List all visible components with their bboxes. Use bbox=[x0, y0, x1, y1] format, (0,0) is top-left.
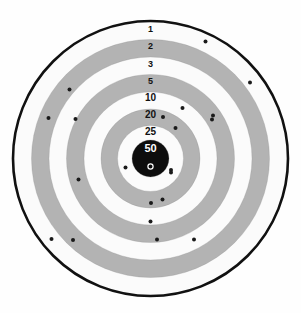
score-label-50: 50 bbox=[144, 142, 156, 154]
score-label-1: 1 bbox=[148, 24, 153, 34]
bullet-hole bbox=[47, 116, 51, 120]
bullet-hole bbox=[210, 118, 214, 122]
score-label-10: 10 bbox=[145, 92, 157, 103]
bullet-hole bbox=[248, 81, 252, 85]
score-label-20: 20 bbox=[145, 109, 157, 120]
bullet-hole bbox=[149, 201, 153, 205]
bullet-hole bbox=[192, 238, 196, 242]
bullet-hole bbox=[124, 166, 128, 170]
score-label-3: 3 bbox=[148, 59, 153, 69]
bullet-hole bbox=[74, 117, 78, 121]
bullet-hole bbox=[68, 88, 72, 92]
bullet-hole bbox=[161, 198, 165, 202]
bullet-hole bbox=[169, 168, 173, 172]
bullet-hole bbox=[174, 126, 178, 130]
bullet-hole bbox=[181, 106, 185, 110]
bullet-hole bbox=[161, 115, 165, 119]
bullet-hole bbox=[204, 40, 208, 44]
target-graphic: 123510202550 bbox=[0, 0, 301, 313]
bullet-hole bbox=[149, 220, 153, 224]
score-label-2: 2 bbox=[148, 41, 153, 51]
bullet-hole bbox=[155, 238, 159, 242]
bullet-hole bbox=[71, 238, 75, 242]
bullet-hole bbox=[211, 114, 215, 118]
score-label-25: 25 bbox=[145, 126, 157, 137]
score-label-5: 5 bbox=[148, 76, 153, 86]
bullet-hole bbox=[50, 237, 54, 241]
bullet-hole bbox=[77, 178, 81, 182]
target-container: 123510202550 bbox=[0, 0, 301, 313]
